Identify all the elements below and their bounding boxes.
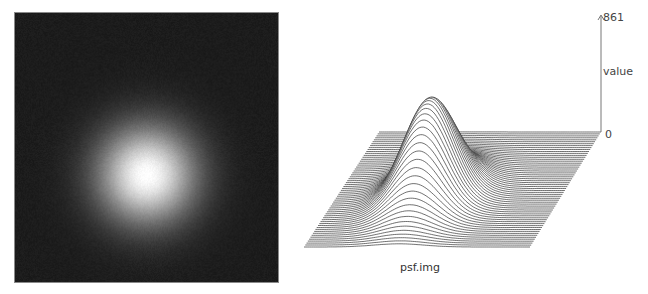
z-axis-min-label: 0: [605, 129, 612, 140]
z-axis-title: value: [603, 66, 633, 77]
z-axis-max-label: 861: [603, 12, 624, 23]
filename-label: psf.img: [400, 262, 440, 273]
psf-surface-plot: 861 value 0 psf.img: [290, 0, 648, 294]
psf-image-canvas: [15, 13, 278, 282]
psf-intensity-image: [14, 12, 279, 283]
surface-wireframe: [290, 0, 648, 294]
